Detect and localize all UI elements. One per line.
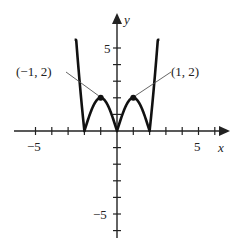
leader-line-left	[66, 72, 99, 96]
axes	[14, 13, 230, 238]
x-axis-label: x	[217, 140, 224, 155]
y-axis-label: y	[122, 12, 130, 27]
x-tick-label-5: 5	[194, 139, 201, 154]
y-tick-label-neg5: −5	[93, 207, 107, 222]
point-label-right: (1, 2)	[171, 64, 199, 79]
x-tick-label-neg5: −5	[27, 139, 41, 154]
point-label-left: (−1, 2)	[16, 64, 52, 79]
y-axis-arrow-icon	[112, 13, 122, 24]
chart: −5 5 x 5 −5 y (−1, 2) (1, 2)	[0, 0, 241, 248]
x-axis-arrow-icon	[219, 126, 230, 136]
y-tick-label-5: 5	[104, 41, 111, 56]
